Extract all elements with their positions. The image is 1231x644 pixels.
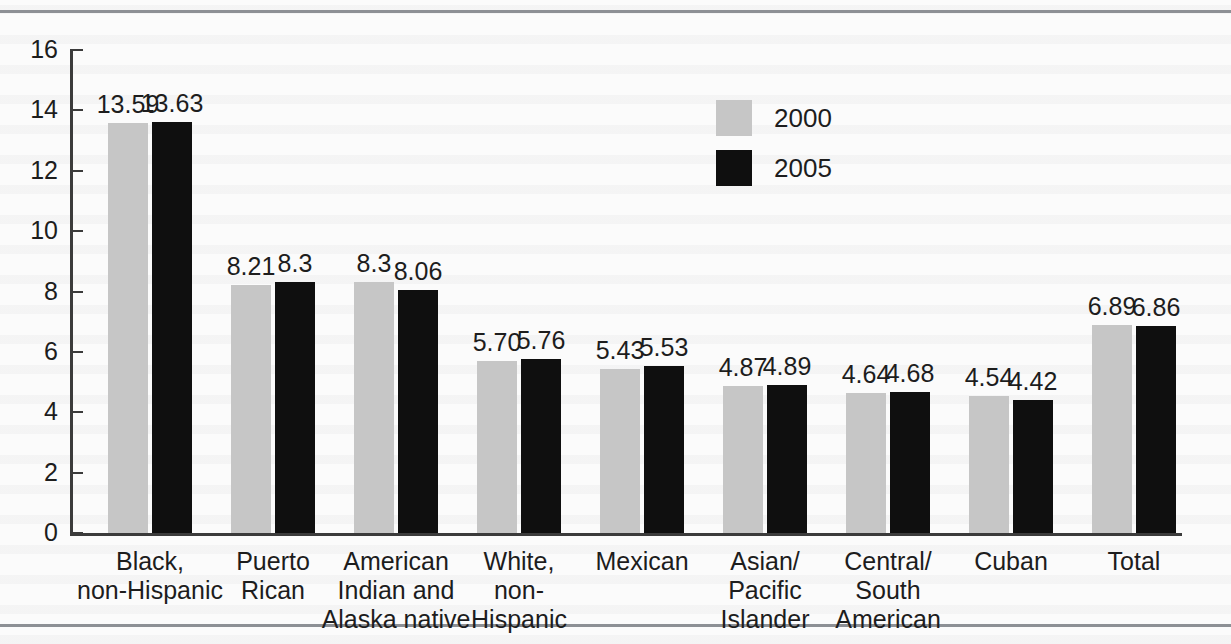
- bar-2005-0: [152, 122, 192, 533]
- bar-2005-4: [644, 366, 684, 533]
- bar-2005-6: [890, 392, 930, 533]
- x-axis-line: [70, 533, 1182, 536]
- bar-2000-2: [354, 282, 394, 533]
- legend-label: 2005: [774, 155, 832, 181]
- bar-2000-6: [846, 393, 886, 533]
- bar-2005-7: [1013, 400, 1053, 533]
- bar-2000-3: [477, 361, 517, 533]
- bar-2000-1: [231, 285, 271, 533]
- bar-value-label: 13.63: [132, 91, 212, 116]
- bar-2000-8: [1092, 325, 1132, 533]
- bar-2000-7: [969, 396, 1009, 533]
- legend-swatch-icon: [716, 150, 752, 186]
- bar-value-label: 8.3: [255, 251, 335, 276]
- category-label-8: Total: [1044, 547, 1224, 576]
- bar-value-label: 5.53: [624, 335, 704, 360]
- legend-item-2005: 2005: [716, 150, 832, 186]
- bar-2000-5: [723, 386, 763, 533]
- bar-value-label: 4.89: [747, 354, 827, 379]
- bar-value-label: 4.68: [870, 361, 950, 386]
- legend-label: 2000: [774, 105, 832, 131]
- bars-layer: [0, 0, 1231, 533]
- bar-2000-4: [600, 369, 640, 533]
- bar-2005-8: [1136, 326, 1176, 533]
- bar-value-label: 4.42: [993, 369, 1073, 394]
- chart-page: 0246810121416 13.5913.638.218.38.38.065.…: [0, 0, 1231, 644]
- legend-swatch-icon: [716, 100, 752, 136]
- bar-2005-2: [398, 290, 438, 533]
- bar-chart: 0246810121416 13.5913.638.218.38.38.065.…: [0, 0, 1231, 644]
- bar-value-label: 6.86: [1116, 295, 1196, 320]
- legend-item-2000: 2000: [716, 100, 832, 136]
- bar-2005-3: [521, 359, 561, 533]
- chart-legend: 20002005: [716, 100, 832, 200]
- bar-2000-0: [108, 123, 148, 533]
- bar-value-label: 5.76: [501, 328, 581, 353]
- bar-2005-5: [767, 385, 807, 533]
- bar-2005-1: [275, 282, 315, 533]
- bar-value-label: 8.06: [378, 259, 458, 284]
